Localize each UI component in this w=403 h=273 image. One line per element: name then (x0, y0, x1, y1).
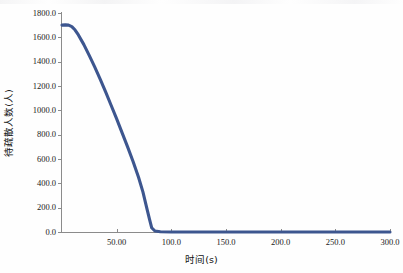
y-tick-label: 400.0 (0, 179, 56, 188)
x-tick-mark (390, 229, 391, 233)
x-tick-label: 50.00 (107, 238, 126, 247)
y-tick-mark (58, 232, 62, 233)
y-tick-label: 600.0 (0, 155, 56, 164)
x-tick-label: 200.0 (271, 238, 290, 247)
x-tick-mark (171, 229, 172, 233)
y-axis-title-label: 待疏散人数(人) (1, 89, 15, 156)
y-tick-mark (58, 86, 62, 87)
x-tick-mark (335, 229, 336, 233)
y-tick-mark (58, 183, 62, 184)
x-tick-label: 300.0 (380, 238, 399, 247)
chart-figure: 待疏散人数(人) 0.0200.0400.0600.0800.01000.012… (0, 0, 403, 273)
y-axis-line (61, 12, 62, 233)
x-tick-label: 150.0 (216, 238, 235, 247)
y-tick-label: 1200.0 (0, 82, 56, 91)
y-tick-label: 1800.0 (0, 9, 56, 18)
y-tick-label: 1400.0 (0, 57, 56, 66)
scan-artifact (0, 0, 403, 4)
y-tick-mark (58, 159, 62, 160)
y-tick-label: 0.0 (0, 228, 56, 237)
y-tick-mark (58, 135, 62, 136)
x-tick-mark (117, 229, 118, 233)
data-series-line (62, 25, 390, 232)
y-tick-label: 1600.0 (0, 33, 56, 42)
x-tick-label: 100.0 (162, 238, 181, 247)
x-axis-title: 时间(s) (0, 252, 403, 266)
y-tick-mark (58, 13, 62, 14)
y-tick-mark (58, 208, 62, 209)
y-tick-mark (58, 62, 62, 63)
x-tick-mark (281, 229, 282, 233)
x-tick-label: 250.0 (326, 238, 345, 247)
y-tick-label: 1000.0 (0, 106, 56, 115)
y-tick-label: 200.0 (0, 203, 56, 212)
x-tick-mark (226, 229, 227, 233)
y-tick-mark (58, 110, 62, 111)
y-tick-mark (58, 37, 62, 38)
y-tick-label: 800.0 (0, 130, 56, 139)
